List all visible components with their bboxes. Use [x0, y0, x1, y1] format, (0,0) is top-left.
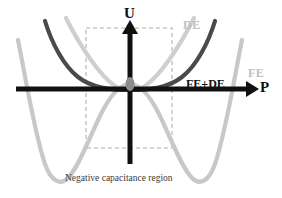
figure-canvas	[0, 0, 282, 198]
fe-de-curve-label: FE+DE	[186, 78, 225, 90]
negative-capacitance-energy-landscape-figure: U P DE FE FE+DE Negative capacitance reg…	[0, 0, 282, 198]
origin-marker-icon	[126, 77, 135, 91]
negative-capacitance-region-label: Negative capacitance region	[65, 174, 173, 184]
p-axis-arrowhead	[246, 81, 259, 97]
u-axis-label: U	[124, 6, 135, 21]
p-axis-label: P	[260, 80, 269, 95]
u-axis-arrowhead	[122, 20, 138, 34]
de-curve-label: DE	[183, 19, 201, 31]
fe-curve-label: FE	[248, 67, 264, 79]
